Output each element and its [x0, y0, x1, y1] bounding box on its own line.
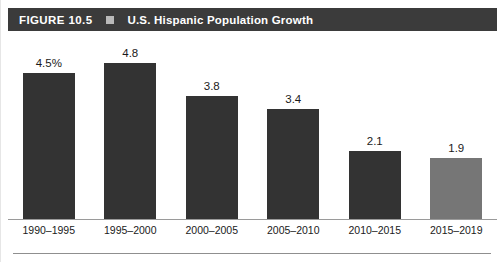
figure-bottom-rule [13, 253, 491, 254]
chart-plot-area: 4.5% 4.8 3.8 3.4 2.1 1.9 [8, 38, 497, 220]
bar-group-0: 4.5% [8, 38, 90, 220]
bar-rect [104, 63, 156, 220]
bar-group-2: 3.8 [171, 38, 253, 220]
x-tick-label: 1995–2000 [90, 224, 172, 236]
figure-title: U.S. Hispanic Population Growth [127, 14, 313, 26]
figure-number: FIGURE 10.5 [19, 14, 92, 26]
bar-series: 4.5% 4.8 3.8 3.4 2.1 1.9 [8, 38, 497, 220]
bar-group-5: 1.9 [416, 38, 498, 220]
bar-value-label: 4.8 [122, 48, 138, 60]
bar-value-label: 3.4 [285, 94, 301, 106]
square-bullet-icon [106, 16, 114, 24]
figure-container: FIGURE 10.5 U.S. Hispanic Population Gro… [0, 0, 503, 262]
bar-value-label: 1.9 [448, 143, 464, 155]
x-tick-label: 1990–1995 [8, 224, 90, 236]
x-tick-label: 2005–2010 [253, 224, 335, 236]
bar-rect-highlight [430, 158, 482, 220]
bar-rect [267, 109, 319, 220]
bar-value-label: 2.1 [367, 136, 383, 148]
x-tick-label: 2000–2005 [171, 224, 253, 236]
bar-group-4: 2.1 [334, 38, 416, 220]
figure-header-bar: FIGURE 10.5 U.S. Hispanic Population Gro… [8, 8, 497, 31]
bar-rect [186, 96, 238, 220]
x-tick-label: 2010–2015 [334, 224, 416, 236]
bar-group-3: 3.4 [253, 38, 335, 220]
bar-value-label: 3.8 [204, 81, 220, 93]
x-axis-tick-labels: 1990–1995 1995–2000 2000–2005 2005–2010 … [8, 224, 497, 236]
bar-group-1: 4.8 [90, 38, 172, 220]
x-axis-line [8, 219, 497, 220]
x-tick-label: 2015–2019 [416, 224, 498, 236]
bar-value-label: 4.5% [36, 58, 62, 70]
bar-rect [23, 73, 75, 220]
bar-rect [349, 151, 401, 220]
